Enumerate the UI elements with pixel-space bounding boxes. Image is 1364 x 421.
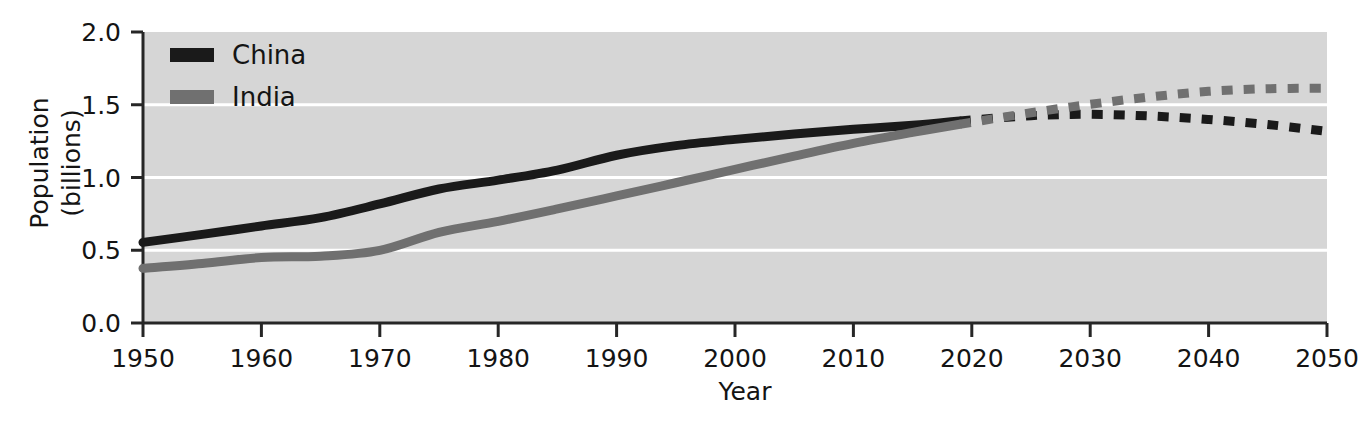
legend-swatch <box>170 48 214 62</box>
x-tick-label: 2010 <box>822 344 886 373</box>
x-tick-label: 2020 <box>940 344 1004 373</box>
legend-swatch <box>170 90 214 104</box>
population-projection-chart: 0.00.51.01.52.0 195019601970198019902000… <box>0 0 1364 421</box>
y-tick-label: 1.5 <box>81 91 121 120</box>
y-tick-label: 0.5 <box>81 236 121 265</box>
legend-label: India <box>232 82 296 112</box>
chart-svg: 0.00.51.01.52.0 195019601970198019902000… <box>0 0 1364 421</box>
x-tick-label: 1980 <box>466 344 530 373</box>
x-tick-label: 1990 <box>585 344 649 373</box>
y-axis-title-line1: Population <box>25 97 54 228</box>
y-tick-label: 2.0 <box>81 18 121 47</box>
x-tick-label: 2030 <box>1058 344 1122 373</box>
x-tick-label: 1960 <box>230 344 294 373</box>
y-axis-title-line2: (billions) <box>57 109 86 216</box>
x-tick-label: 2040 <box>1177 344 1241 373</box>
x-tick-label: 2000 <box>703 344 767 373</box>
y-tick-label: 0.0 <box>81 309 121 338</box>
x-tick-label: 1950 <box>111 344 175 373</box>
x-axis-title: Year <box>718 377 773 406</box>
legend-label: China <box>232 40 306 70</box>
x-tick-label: 2050 <box>1295 344 1359 373</box>
x-tick-label: 1970 <box>348 344 412 373</box>
y-tick-label: 1.0 <box>81 164 121 193</box>
